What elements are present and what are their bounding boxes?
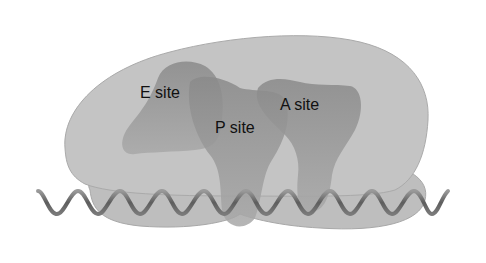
p-site-label: P site <box>215 119 255 137</box>
ribosome-diagram: E site P site A site <box>0 0 486 263</box>
a-site-label: A site <box>280 96 319 114</box>
e-site-label: E site <box>140 84 180 102</box>
